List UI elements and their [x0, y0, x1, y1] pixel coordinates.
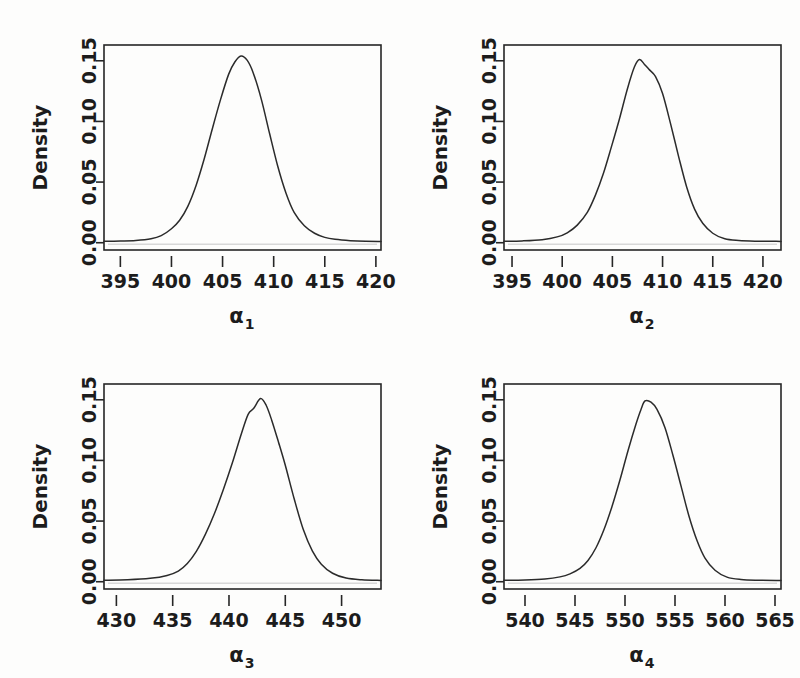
y-axis-title: Density — [428, 444, 452, 530]
x-tick-label: 440 — [209, 609, 249, 631]
panel-plot-area: 0.000.050.100.15Density54054555055556056… — [400, 339, 800, 678]
y-tick-label: 0.05 — [78, 159, 100, 206]
x-tick-label: 560 — [705, 609, 745, 631]
y-tick-label: 0.05 — [478, 498, 500, 545]
density-curve — [504, 60, 781, 242]
y-tick-label: 0.10 — [78, 437, 100, 484]
y-axis-title: Density — [28, 444, 52, 530]
x-tick-label: 540 — [505, 609, 545, 631]
x-tick-label: 405 — [203, 270, 243, 292]
x-tick-label: 415 — [693, 270, 733, 292]
y-tick-label: 0.10 — [478, 437, 500, 484]
y-tick-label: 0.00 — [78, 558, 100, 605]
y-tick-label: 0.00 — [478, 219, 500, 266]
x-axis-title-subscript: 3 — [245, 655, 255, 671]
x-tick-label: 420 — [356, 270, 396, 292]
y-tick-label: 0.15 — [478, 37, 500, 84]
x-tick-label: 395 — [492, 270, 532, 292]
x-tick-label: 420 — [743, 270, 783, 292]
y-tick-label: 0.00 — [78, 219, 100, 266]
plot-box-frame — [504, 384, 781, 589]
x-tick-label: 395 — [101, 270, 141, 292]
y-tick-label: 0.10 — [78, 98, 100, 145]
panel-plot-area: 0.000.050.100.15Density430435440445450α3 — [0, 339, 400, 678]
x-axis-title: α — [229, 304, 243, 328]
x-axis-title: α — [229, 643, 243, 667]
panel-plot-area: 0.000.050.100.15Density39540040541041542… — [400, 0, 800, 339]
density-curve — [104, 56, 381, 242]
y-tick-label: 0.05 — [78, 498, 100, 545]
x-tick-label: 450 — [322, 609, 362, 631]
x-tick-label: 410 — [643, 270, 683, 292]
panel-alpha-2: 0.000.050.100.15Density39540040541041542… — [400, 0, 800, 339]
y-tick-label: 0.15 — [78, 37, 100, 84]
x-tick-label: 550 — [605, 609, 645, 631]
y-tick-label: 0.05 — [478, 159, 500, 206]
plot-box-frame — [104, 45, 381, 250]
x-tick-label: 435 — [153, 609, 193, 631]
x-tick-label: 405 — [593, 270, 633, 292]
x-tick-label: 430 — [97, 609, 137, 631]
x-tick-label: 410 — [254, 270, 294, 292]
panel-alpha-4: 0.000.050.100.15Density54054555055556056… — [400, 339, 800, 678]
x-axis-title-subscript: 2 — [645, 316, 655, 332]
panel-alpha-3: 0.000.050.100.15Density430435440445450α3 — [0, 339, 400, 678]
y-tick-label: 0.15 — [478, 376, 500, 423]
x-tick-label: 400 — [542, 270, 582, 292]
plot-box-frame — [504, 45, 781, 250]
y-tick-label: 0.15 — [78, 376, 100, 423]
x-tick-label: 445 — [265, 609, 305, 631]
density-curve — [104, 399, 381, 581]
x-axis-title-subscript: 4 — [645, 655, 655, 671]
panel-plot-area: 0.000.050.100.15Density39540040541041542… — [0, 0, 400, 339]
density-curve — [504, 400, 781, 580]
x-tick-label: 565 — [755, 609, 795, 631]
y-tick-label: 0.10 — [478, 98, 500, 145]
x-axis-title: α — [629, 304, 643, 328]
plot-box-frame — [104, 384, 381, 589]
y-axis-title: Density — [428, 105, 452, 191]
x-tick-label: 555 — [655, 609, 695, 631]
x-axis-title-subscript: 1 — [245, 316, 255, 332]
x-tick-label: 545 — [555, 609, 595, 631]
panel-alpha-1: 0.000.050.100.15Density39540040541041542… — [0, 0, 400, 339]
density-plot-figure: 0.000.050.100.15Density39540040541041542… — [0, 0, 800, 678]
x-axis-title: α — [629, 643, 643, 667]
y-tick-label: 0.00 — [478, 558, 500, 605]
y-axis-title: Density — [28, 105, 52, 191]
x-tick-label: 400 — [152, 270, 192, 292]
x-tick-label: 415 — [305, 270, 345, 292]
